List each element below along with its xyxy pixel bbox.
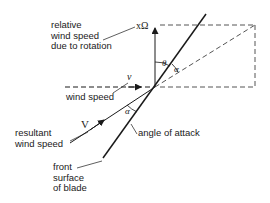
label-resultant: resultant wind speed: [15, 128, 63, 149]
label-angle-of-attack: angle of attack: [138, 128, 200, 139]
label-alpha-upper: α: [174, 64, 179, 74]
leader-wind-speed: [113, 83, 128, 93]
label-relative-wind: relative wind speed due to rotation: [51, 20, 112, 52]
label-front-surface: front surface of blade: [53, 162, 87, 194]
dashed-rectangle: [155, 25, 255, 87]
leader-angle-of-attack: [131, 124, 137, 134]
resultant-arrow: [90, 120, 104, 130]
label-theta: θ: [162, 58, 166, 68]
velocity-diagram: [0, 0, 270, 203]
label-resultant-symbol: V: [81, 118, 89, 130]
label-alpha-lower: α: [125, 106, 130, 116]
label-wind-speed-symbol: v: [127, 71, 131, 82]
label-rotation-symbol: xΩ: [136, 20, 148, 31]
leader-resultant: [70, 132, 88, 141]
resultant-diagonal: [155, 25, 255, 87]
label-wind-speed: wind speed: [66, 92, 114, 103]
